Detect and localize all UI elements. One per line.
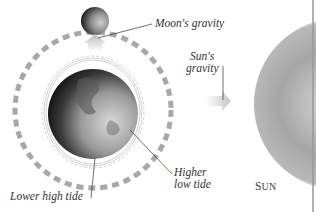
sun-label-initial: S — [255, 180, 262, 192]
sun-label-rest: UN — [262, 181, 277, 192]
sun-gravity-label-line2: gravity — [186, 62, 219, 74]
sun-gravity-label-line1: Sun's — [190, 50, 214, 62]
sun-gravity-arrow — [206, 91, 231, 111]
earth — [48, 69, 138, 159]
higher-low-tide-label-line1: Higher — [174, 166, 207, 178]
sun — [254, 18, 316, 190]
higher-low-tide-label-line2: low tide — [174, 178, 211, 190]
moon — [81, 7, 109, 35]
sun-label: SUN — [255, 180, 276, 192]
moon-gravity-label: Moon's gravity — [155, 17, 224, 29]
lower-high-tide-label: Lower high tide — [10, 190, 83, 202]
